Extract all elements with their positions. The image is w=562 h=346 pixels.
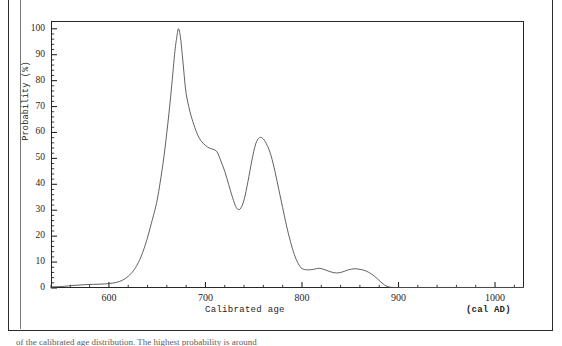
y-tick-label: 10: [15, 256, 45, 266]
x-tick-label: 600: [87, 292, 131, 303]
x-axis-title: Calibrated age: [205, 305, 285, 315]
x-tick-label: 700: [183, 292, 227, 303]
y-tick-label: 0: [15, 282, 45, 292]
x-axis-unit-label: (cal AD): [466, 305, 511, 315]
y-tick-label: 100: [15, 23, 45, 33]
y-tick-label: 80: [15, 75, 45, 85]
figure-page: Probability (%) Calibrated age (cal AD) …: [0, 0, 562, 346]
x-tick-label: 1000: [473, 292, 517, 303]
y-tick-label: 30: [15, 204, 45, 214]
x-tick-label: 900: [377, 292, 421, 303]
probability-distribution-curve: [51, 21, 524, 288]
y-tick-label: 70: [15, 101, 45, 111]
x-tick-label: 800: [280, 292, 324, 303]
y-tick-label: 90: [15, 49, 45, 59]
y-tick-label: 40: [15, 178, 45, 188]
y-tick-label: 60: [15, 126, 45, 136]
figure-caption: of the calibrated age distribution. The …: [16, 337, 556, 346]
curve-path: [51, 29, 524, 288]
y-tick-label: 20: [15, 230, 45, 240]
y-tick-label: 50: [15, 152, 45, 162]
